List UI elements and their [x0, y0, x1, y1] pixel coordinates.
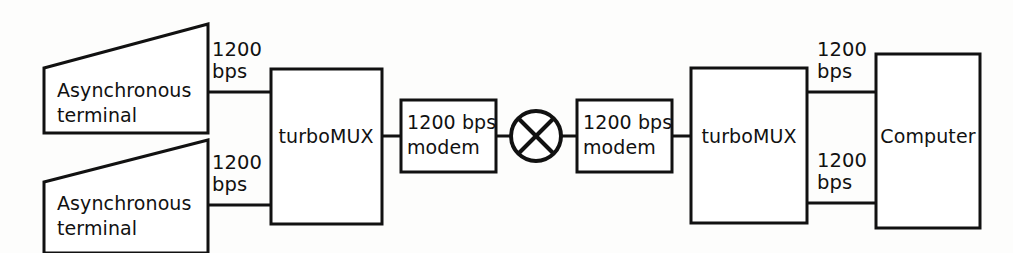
rate-bottom-right-line2: bps: [817, 171, 852, 194]
mux-left-label: turboMUX: [278, 125, 373, 147]
terminal-bottom-label-line1: Asynchronous: [57, 192, 192, 214]
rate-top-right-line2: bps: [817, 60, 852, 83]
rate-top-left-line1: 1200: [212, 38, 262, 61]
terminal-top-label-line2: terminal: [57, 104, 137, 126]
node-network-symbol[interactable]: [511, 111, 561, 161]
terminal-bottom-label-line2: terminal: [57, 217, 137, 239]
modem-right-label-line1: 1200 bps: [583, 111, 672, 133]
rate-bottom-left-line1: 1200: [212, 151, 262, 174]
network-block-diagram: Asynchronous terminal Asynchronous termi…: [0, 0, 1013, 253]
modem-left-label-line2: modem: [407, 136, 480, 158]
modem-right-label-line2: modem: [583, 136, 656, 158]
modem-left-label-line1: 1200 bps: [407, 111, 496, 133]
terminal-top-label-line1: Asynchronous: [57, 79, 192, 101]
computer-label: Computer: [880, 125, 975, 147]
rate-top-right-line1: 1200: [817, 38, 867, 61]
mux-right-label: turboMUX: [701, 125, 796, 147]
diagram-canvas: Asynchronous terminal Asynchronous termi…: [0, 0, 1013, 253]
rate-top-left-line2: bps: [212, 60, 247, 83]
rate-bottom-right-line1: 1200: [817, 149, 867, 172]
rate-bottom-left-line2: bps: [212, 173, 247, 196]
